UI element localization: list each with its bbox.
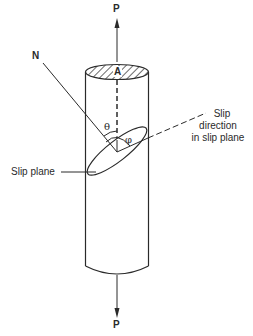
slip-plane-label: Slip plane (11, 166, 55, 178)
bottom-load-arrow (115, 275, 120, 318)
load-label-bottom: P (113, 319, 120, 331)
area-label: A (113, 66, 122, 77)
slip-direction-label-line3: in slip plane (185, 132, 251, 144)
slip-direction-label-line1: Slip (185, 108, 251, 120)
normal-label: N (32, 50, 39, 62)
theta-label: θ (104, 121, 110, 133)
phi-label: φ (125, 134, 132, 146)
slip-direction-label: Slip direction in slip plane (185, 108, 251, 144)
top-load-arrow (115, 18, 120, 62)
load-label-top: P (113, 3, 120, 15)
slip-direction-label-line2: direction (185, 120, 251, 132)
